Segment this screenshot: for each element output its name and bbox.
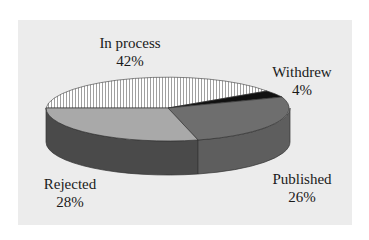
label-pct: 26% [262,188,342,206]
label-rejected: Rejected 28% [30,175,110,211]
label-name: Withdrew [262,63,342,81]
label-pct: 42% [90,52,170,70]
label-withdrew: Withdrew 4% [262,63,342,99]
label-name: Published [262,170,342,188]
label-pct: 4% [262,81,342,99]
label-name: In process [90,34,170,52]
label-in-process: In process 42% [90,34,170,70]
label-name: Rejected [30,175,110,193]
label-published: Published 26% [262,170,342,206]
label-pct: 28% [30,193,110,211]
